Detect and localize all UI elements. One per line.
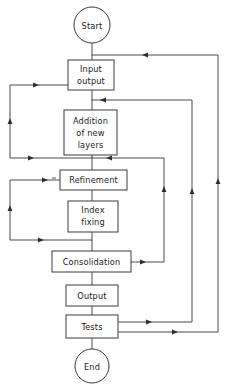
input-output-label-line1: Input (80, 64, 103, 74)
addition-label-line2: of new (76, 128, 104, 138)
node-tests[interactable]: Tests (66, 315, 118, 338)
arrowhead-consolidation-loop-right (140, 260, 146, 265)
node-start[interactable]: Start (74, 7, 110, 43)
arrowhead-tests-loop-into-top (142, 53, 148, 58)
arrowhead-tests-loop-vertical-2 (216, 178, 221, 184)
arrowhead-addition-loop-into-input (33, 83, 39, 88)
refinement-label: Refinement (69, 175, 118, 185)
addition-label-line3: layers (78, 140, 104, 150)
arrowhead-consolidation-loop-vertical (162, 186, 167, 192)
node-index-fixing[interactable]: Index fixing (68, 201, 118, 232)
index-fixing-label-line2: fixing (81, 217, 105, 227)
arrowhead-addition-loop-bottom (28, 156, 34, 161)
output-label: Output (77, 291, 107, 301)
flowchart-canvas: Start Input output Addition of new layer… (0, 0, 226, 391)
arrowhead-addition-loop-vertical (8, 118, 13, 124)
arrowhead-tests-loop-right-1 (146, 320, 152, 325)
end-label: End (84, 362, 100, 372)
addition-label-line1: Addition (73, 116, 108, 126)
arrowhead-consolidation-loop-into-addition (106, 156, 112, 161)
node-addition[interactable]: Addition of new layers (64, 110, 117, 155)
flowchart-svg: Start Input output Addition of new layer… (0, 0, 226, 391)
node-refinement[interactable]: Refinement (60, 170, 127, 190)
node-consolidation[interactable]: Consolidation (52, 251, 131, 272)
arrowhead-tests-loop-vertical-1 (190, 188, 195, 194)
arrowhead-tests-loop-right-2 (172, 330, 178, 335)
arrowhead-index-loop-vertical (8, 205, 13, 211)
index-fixing-label-line1: Index (81, 205, 104, 215)
arrowhead-index-loop-bottom (38, 238, 44, 243)
node-input-output[interactable]: Input output (68, 60, 114, 90)
arrowhead-tests-loop-into-upper-1 (100, 98, 106, 103)
node-output[interactable]: Output (66, 285, 118, 306)
tests-label: Tests (80, 322, 102, 332)
arrowhead-index-loop-into-refinement (42, 178, 48, 183)
node-end[interactable]: End (75, 349, 109, 383)
start-label: Start (82, 21, 103, 31)
input-output-label-line2: output (77, 76, 106, 86)
consolidation-label: Consolidation (63, 257, 121, 267)
